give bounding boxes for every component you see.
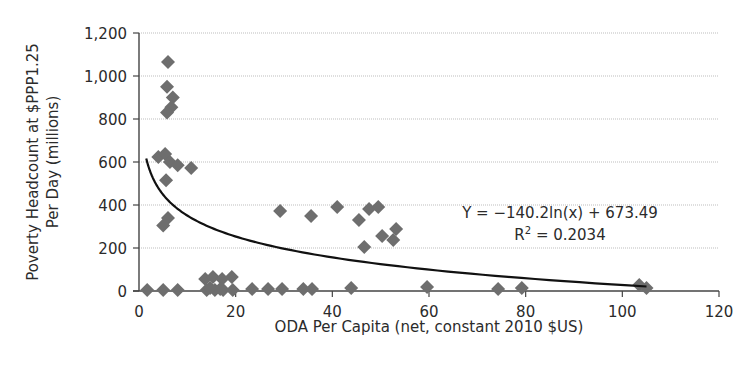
diamond-marker: [184, 161, 198, 175]
r-squared-label: R2 = 0.2034: [514, 225, 605, 244]
y-tick-label: 800: [98, 111, 127, 129]
y-tick-label: 1,200: [84, 25, 127, 43]
data-points: [140, 55, 653, 297]
diamond-marker: [305, 282, 319, 296]
y-axis-ticks: 02004006008001,0001,200: [84, 25, 139, 301]
diamond-marker: [273, 204, 287, 218]
diamond-marker: [156, 283, 170, 297]
diamond-marker: [161, 55, 175, 69]
y-axis-label-line-1: Poverty Headcount at $PPP1.25: [24, 43, 42, 281]
r2-prefix: R: [514, 226, 524, 244]
diamond-marker: [245, 282, 259, 296]
diamond-marker: [491, 282, 505, 296]
diamond-marker: [225, 270, 239, 284]
diamond-marker: [330, 200, 344, 214]
diamond-marker: [344, 281, 358, 295]
diamond-marker: [352, 213, 366, 227]
diamond-marker: [357, 240, 371, 254]
diamond-marker: [386, 233, 400, 247]
diamond-marker: [515, 281, 529, 295]
y-tick-label: 600: [98, 154, 127, 172]
diamond-marker: [261, 282, 275, 296]
diamond-marker: [140, 283, 154, 297]
x-tick-label: 0: [134, 303, 144, 321]
diamond-marker: [171, 283, 185, 297]
scatter-chart: 02004006008001,0001,200 020406080100120 …: [0, 0, 752, 377]
diamond-marker: [226, 283, 240, 297]
diamond-marker: [375, 229, 389, 243]
y-tick-label: 200: [98, 240, 127, 258]
diamond-marker: [389, 222, 403, 236]
y-tick-label: 400: [98, 197, 127, 215]
diamond-marker: [159, 173, 173, 187]
x-tick-label: 120: [705, 303, 734, 321]
x-axis-label: ODA Per Capita (net, constant 2010 $US): [275, 318, 584, 336]
diamond-marker: [420, 280, 434, 294]
x-tick-label: 20: [226, 303, 245, 321]
y-axis-label: Poverty Headcount at $PPP1.25 Per Day (m…: [24, 43, 62, 281]
diamond-marker: [371, 200, 385, 214]
diamond-marker: [304, 209, 318, 223]
trendline-equation: Y = −140.2ln(x) + 673.49: [461, 204, 658, 222]
y-tick-label: 1,000: [84, 68, 127, 86]
y-tick-label: 0: [117, 283, 127, 301]
diamond-marker: [275, 282, 289, 296]
y-axis-label-line-2: Per Day (millions): [44, 96, 62, 229]
r2-value: = 0.2034: [531, 226, 606, 244]
x-tick-label: 100: [608, 303, 637, 321]
